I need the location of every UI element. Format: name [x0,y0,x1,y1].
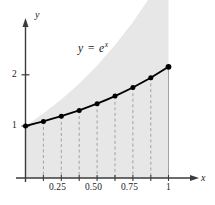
x-tick-label-075: 0.75 [121,183,138,193]
x-tick-label-1: 1 [166,183,171,193]
data-point [41,119,46,124]
data-point [130,85,135,90]
data-point [77,108,82,113]
y-tick-label-2: 2 [12,70,17,80]
data-point [113,94,118,99]
data-point [23,124,28,129]
curve-equation-exponent: x [105,40,109,49]
data-point [166,64,172,70]
x-axis-arrowhead [190,175,199,181]
data-point [148,75,153,80]
x-axis-label: x [201,173,205,183]
x-tick-label-025: 0.25 [49,183,66,193]
y-axis-arrowhead [23,18,29,27]
data-point [59,114,64,119]
curve-equation-label: y = ex [78,43,109,55]
y-tick-label-1: 1 [12,121,17,131]
exponential-area-figure: y x 1 2 0.25 0.50 0.75 1 y = ex [0,0,215,205]
x-tick-label-050: 0.50 [85,183,102,193]
data-point [95,101,100,106]
plot-canvas [0,0,215,205]
y-axis-label: y [35,10,39,20]
curve-equation-base: y = e [78,42,105,54]
